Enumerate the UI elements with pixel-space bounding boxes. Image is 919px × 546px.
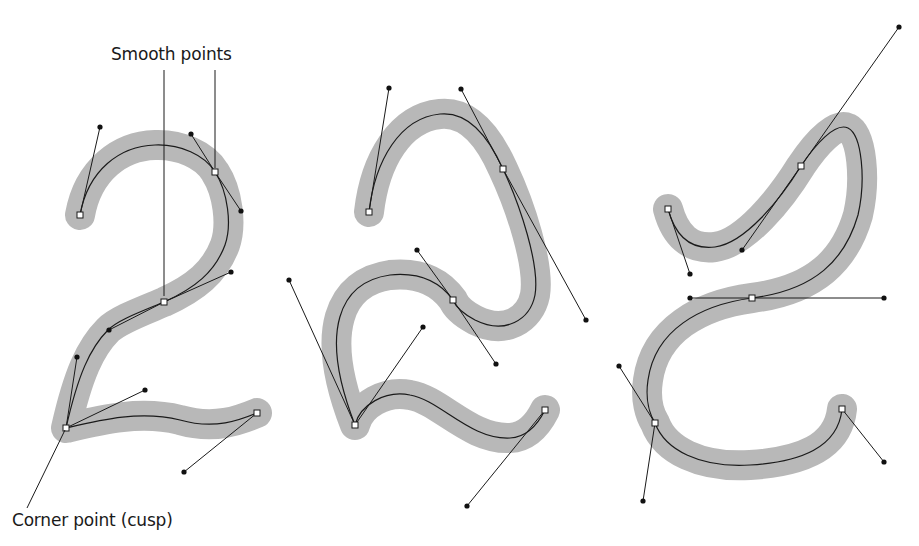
handle-point-icon (238, 208, 243, 213)
anchor-point-icon (254, 410, 260, 416)
handle-point-icon (228, 269, 233, 274)
handle-point-icon (420, 324, 425, 329)
anchor-point-icon (798, 163, 804, 169)
handle-point-icon (896, 24, 901, 29)
anchor-point-icon (542, 407, 548, 413)
handle-point-icon (286, 277, 291, 282)
handle-point-icon (188, 131, 193, 136)
handle-point-icon (464, 503, 469, 508)
anchor-point-icon (665, 206, 671, 212)
corner-callout (27, 430, 65, 508)
corner-point-label: Corner point (cusp) (12, 510, 173, 530)
handle-point-icon (640, 498, 645, 503)
anchor-point-icon (450, 297, 456, 303)
anchor-point-icon (366, 209, 372, 215)
anchor-point-icon (161, 299, 167, 305)
glyph-2-middle (286, 85, 588, 508)
stroke-band (336, 114, 545, 438)
handle-point-icon (881, 459, 886, 464)
handle-point-icon (881, 295, 886, 300)
anchor-point-icon (749, 295, 755, 301)
handle-point-icon (616, 363, 621, 368)
handle-point-icon (493, 361, 498, 366)
anchor-point-icon (63, 425, 69, 431)
anchor-point-icon (352, 422, 358, 428)
handle-point-icon (458, 86, 463, 91)
handle-point-icon (142, 387, 147, 392)
handle-point-icon (97, 124, 102, 129)
glyph-2-left (63, 124, 260, 474)
handle-point-icon (74, 354, 79, 359)
anchor-point-icon (77, 212, 83, 218)
anchor-point-icon (212, 169, 218, 175)
glyph-2-right (616, 24, 901, 503)
handle-point-icon (181, 469, 186, 474)
anchor-point-icon (839, 406, 845, 412)
stroke-band (66, 145, 257, 428)
bezier-points-diagram: Smooth points Corner point (cusp) (0, 0, 919, 546)
handle-point-icon (739, 247, 744, 252)
handle-point-icon (687, 295, 692, 300)
handle-point-icon (386, 85, 391, 90)
handle-point-icon (687, 271, 692, 276)
anchor-point-icon (652, 420, 658, 426)
smooth-points-label: Smooth points (111, 44, 232, 64)
glyph-outline-canvas (0, 0, 919, 546)
anchor-point-icon (500, 166, 506, 172)
handle-point-icon (106, 327, 111, 332)
handle-point-icon (583, 317, 588, 322)
handle-point-icon (414, 247, 419, 252)
